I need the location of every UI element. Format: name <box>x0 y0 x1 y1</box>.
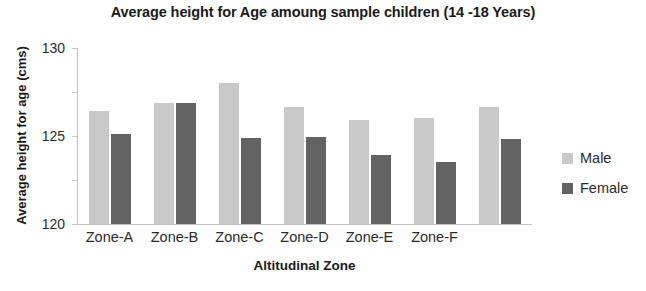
bar-male-zone-a <box>89 111 109 224</box>
bar-male-zone-d <box>284 107 304 224</box>
bar-female-zone-a <box>111 134 131 224</box>
legend-item-male[interactable]: Male <box>562 143 628 173</box>
x-axis-category-label: Zone-B <box>151 230 199 245</box>
chart-legend: MaleFemale <box>562 143 628 203</box>
x-axis-line <box>77 224 532 225</box>
y-axis-tick: 110 <box>72 224 77 225</box>
legend-swatch-icon <box>562 183 573 194</box>
x-axis-category-label: Zone-D <box>280 230 328 245</box>
x-axis-category-label: Zone-F <box>411 230 458 245</box>
y-axis-title: Average height for age (cms) <box>14 28 29 243</box>
y-axis-tick-label: 125 <box>42 129 65 143</box>
bar-female-zone-c <box>241 138 261 224</box>
legend-label: Female <box>580 181 628 196</box>
legend-label: Male <box>580 151 611 166</box>
bar-group <box>207 48 272 224</box>
x-axis-category-label: Zone-E <box>346 230 394 245</box>
bar-female-zone-b <box>176 103 196 224</box>
bar-group <box>337 48 402 224</box>
x-axis-category-label: Zone-C <box>215 230 263 245</box>
legend-swatch-icon <box>562 153 573 164</box>
x-axis-title: Altitudinal Zone <box>77 258 532 273</box>
bar-female-group7 <box>501 139 521 224</box>
bar-male-group7 <box>479 107 499 224</box>
bar-female-zone-e <box>371 155 391 224</box>
bar-male-zone-e <box>349 120 369 224</box>
bar-male-zone-c <box>219 83 239 224</box>
bar-group <box>142 48 207 224</box>
plot-area: 110115120125130Zone-AZone-BZone-CZone-DZ… <box>77 48 532 224</box>
bar-group <box>402 48 467 224</box>
bar-male-zone-b <box>154 103 174 224</box>
bar-female-zone-f <box>436 162 456 224</box>
bar-male-zone-f <box>414 118 434 224</box>
bar-group <box>272 48 337 224</box>
y-axis-tick-label: 120 <box>42 217 65 231</box>
bar-group <box>77 48 142 224</box>
y-axis-tick-label: 130 <box>42 41 65 55</box>
legend-item-female[interactable]: Female <box>562 173 628 203</box>
bar-group <box>467 48 532 224</box>
chart-title: Average height for Age amoung sample chi… <box>0 4 646 20</box>
bar-female-zone-d <box>306 137 326 224</box>
bar-chart: Average height for Age amoung sample chi… <box>0 0 646 291</box>
x-axis-category-label: Zone-A <box>86 230 134 245</box>
